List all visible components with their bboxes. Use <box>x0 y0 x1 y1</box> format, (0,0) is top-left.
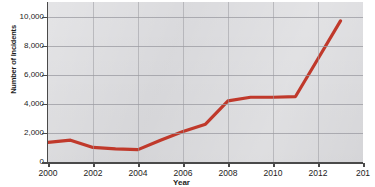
horizontal-gridline <box>48 133 363 134</box>
horizontal-gridline <box>48 75 363 76</box>
x-axis-tick-mark <box>138 163 140 167</box>
x-axis-tick-mark <box>48 163 50 167</box>
vertical-gridline <box>138 2 139 162</box>
y-axis-tick-mark <box>42 17 48 19</box>
x-axis-title: Year <box>0 178 363 187</box>
x-axis-tick-label: 2008 <box>206 168 250 178</box>
y-axis-tick-mark <box>42 104 48 106</box>
x-axis-tick-mark <box>363 163 365 167</box>
x-axis-tick-label: 2004 <box>116 168 160 178</box>
vertical-gridline <box>318 2 319 162</box>
horizontal-gridline <box>48 104 363 105</box>
x-axis-tick-mark <box>183 163 185 167</box>
x-axis-tick-mark <box>93 163 95 167</box>
horizontal-gridline <box>48 46 363 47</box>
plot-area <box>48 2 363 162</box>
y-axis-tick-labels: 02,0004,0006,0008,00010,000 <box>8 0 44 187</box>
x-axis-tick-label: 2010 <box>251 168 295 178</box>
y-axis-tick-label: 0 <box>10 158 44 166</box>
x-axis-tick-mark <box>228 163 230 167</box>
x-axis-tick-label: 2002 <box>71 168 115 178</box>
vertical-gridline <box>183 2 184 162</box>
vertical-gridline <box>93 2 94 162</box>
y-axis-tick-label: 6,000 <box>10 71 44 79</box>
y-axis-tick-label: 8,000 <box>10 42 44 50</box>
x-axis-tick-label: 2012 <box>296 168 340 178</box>
vertical-gridline <box>273 2 274 162</box>
data-series-line <box>48 2 363 162</box>
x-axis-tick-label: 2006 <box>161 168 205 178</box>
y-axis-tick-label: 10,000 <box>10 13 44 21</box>
x-axis-tick-mark <box>273 163 275 167</box>
x-axis-tick-label: 2000 <box>26 168 70 178</box>
y-axis-tick-mark <box>42 46 48 48</box>
series-line-number-of-incidents <box>48 21 341 150</box>
y-axis-tick-mark <box>42 75 48 77</box>
x-axis-tick-mark <box>318 163 320 167</box>
x-axis-tick-label: 201 <box>341 168 375 178</box>
y-axis-tick-mark <box>42 133 48 135</box>
horizontal-gridline <box>48 17 363 18</box>
y-axis-tick-label: 4,000 <box>10 100 44 108</box>
y-axis-tick-label: 2,000 <box>10 129 44 137</box>
vertical-gridline <box>228 2 229 162</box>
